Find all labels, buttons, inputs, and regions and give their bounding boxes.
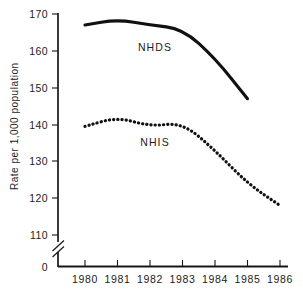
x-tick-label-1981: 1981 xyxy=(105,273,131,285)
x-tick-label-1985: 1985 xyxy=(235,273,261,285)
y-tick-label-130: 130 xyxy=(29,155,48,167)
y-tick-label-110: 110 xyxy=(30,229,48,241)
y-tick-label-160: 160 xyxy=(29,45,48,57)
x-tick-label-1982: 1982 xyxy=(137,273,163,285)
x-tick-label-1986: 1986 xyxy=(267,273,293,285)
y-tick-label-170: 170 xyxy=(29,8,48,20)
x-tick-label-1980: 1980 xyxy=(72,273,98,285)
chart-figure: 170 160 150 140 130 120 110 0 Rate per 1… xyxy=(0,0,303,297)
x-tick-label-1983: 1983 xyxy=(170,273,196,285)
y-tick-label-150: 150 xyxy=(29,82,48,94)
x-tick-label-1984: 1984 xyxy=(202,273,228,285)
y-tick-label-140: 140 xyxy=(29,119,48,131)
series-annotation-nhds: NHDS xyxy=(138,41,172,53)
x-tick-labels: 1980 1981 1982 1983 1984 1985 1986 xyxy=(72,273,293,285)
y-axis-title: Rate per 1,000 population xyxy=(9,62,20,190)
y-tick-label-120: 120 xyxy=(29,192,48,204)
line-chart-svg: 170 160 150 140 130 120 110 0 Rate per 1… xyxy=(0,0,303,297)
series-annotation-nhis: NHIS xyxy=(140,136,170,148)
y-tick-label-0: 0 xyxy=(42,261,48,273)
